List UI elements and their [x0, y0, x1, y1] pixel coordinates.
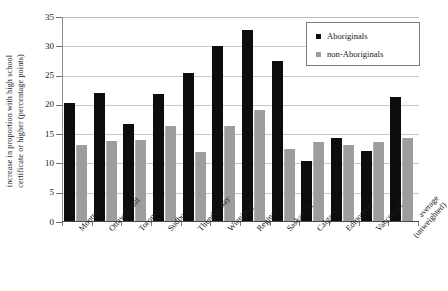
- chart-legend: Aboriginals non-Aboriginals: [306, 22, 420, 66]
- bar-group: [63, 17, 93, 222]
- legend-item-aboriginals: Aboriginals: [316, 30, 368, 42]
- y-tick-label: 25: [34, 71, 54, 80]
- bar-group: [241, 17, 271, 222]
- bar-non-aboriginals: [313, 142, 324, 222]
- legend-label-aboriginals: Aboriginals: [327, 32, 368, 41]
- bar-non-aboriginals: [402, 138, 413, 222]
- legend-label-non-aboriginals: non-Aboriginals: [327, 50, 383, 59]
- bar-aboriginals: [242, 30, 253, 222]
- bar-group: [271, 17, 301, 222]
- bar-aboriginals: [94, 93, 105, 222]
- y-axis-title-line1: increase in proportion with high school: [5, 55, 14, 187]
- bar-aboriginals: [272, 61, 283, 222]
- bar-aboriginals: [183, 73, 194, 222]
- bar-group: [122, 17, 152, 222]
- bar-group: [182, 17, 212, 222]
- y-tick-label: 15: [34, 130, 54, 139]
- x-tick-mark: [62, 222, 63, 226]
- legend-item-non-aboriginals: non-Aboriginals: [316, 48, 383, 60]
- bar-non-aboriginals: [106, 141, 117, 222]
- y-tick-label: 10: [34, 159, 54, 168]
- bar-group: [93, 17, 123, 222]
- bar-non-aboriginals: [284, 149, 295, 222]
- bar-group: [211, 17, 241, 222]
- bar-non-aboriginals: [165, 126, 176, 222]
- bar-aboriginals: [64, 103, 75, 222]
- y-tick-label: 30: [34, 42, 54, 51]
- cut-off-top-text: [44, 0, 304, 6]
- bar-non-aboriginals: [135, 140, 146, 222]
- y-tick-label: 5: [34, 188, 54, 197]
- square-marker-icon: [316, 52, 321, 57]
- bar-non-aboriginals: [254, 110, 265, 222]
- bar-aboriginals: [212, 46, 223, 222]
- y-axis-title-line2: certificate or higher (percentage points…: [15, 54, 26, 188]
- y-tick-label: 35: [34, 13, 54, 22]
- bar-non-aboriginals: [343, 145, 354, 222]
- bar-non-aboriginals: [373, 142, 384, 222]
- bar-non-aboriginals: [76, 145, 87, 222]
- y-tick-label: 20: [34, 100, 54, 109]
- square-marker-icon: [316, 34, 321, 39]
- y-tick-label: 0: [34, 218, 54, 227]
- bar-aboriginals: [153, 94, 164, 222]
- bar-group: [152, 17, 182, 222]
- y-axis-title: increase in proportion with high school …: [0, 16, 30, 226]
- bar-non-aboriginals: [195, 152, 206, 222]
